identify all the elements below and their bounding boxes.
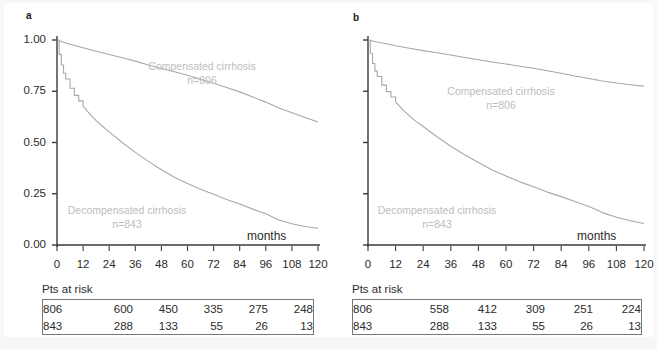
panel-b-x-tick-84: 84 (555, 259, 568, 271)
panel-b-x-axis-title: months (577, 230, 616, 242)
panel-a-x-tick-60: 60 (181, 259, 194, 271)
risk-cell: 55 (497, 317, 545, 334)
panel-b-x-tick-72: 72 (527, 259, 540, 271)
risk-cell: 13 (593, 317, 641, 334)
panel-a-risk-caption: Pts at risk (42, 284, 92, 296)
risk-cell: 806 (353, 300, 401, 317)
risk-cell: 248 (268, 300, 313, 317)
panel-b-x-tick-24: 24 (417, 259, 430, 271)
panel-a-y-tick-0.75: 0.75 (12, 85, 46, 97)
risk-cell: 450 (133, 300, 178, 317)
panel-a-x-tick-36: 36 (129, 259, 142, 271)
panel-a-risk-table: 806600450335275248843288133552613 (42, 299, 314, 335)
risk-cell: 275 (223, 300, 268, 317)
panel-a-x-tick-72: 72 (207, 259, 220, 271)
panel-a-y-tick-0.00: 0.00 (12, 239, 46, 251)
risk-cell: 843 (353, 317, 401, 334)
panel-a-x-tick-84: 84 (233, 259, 246, 271)
panel-b-x-tick-48: 48 (472, 259, 485, 271)
panel-b-x-tick-120: 120 (634, 259, 653, 271)
risk-cell: 224 (593, 300, 641, 317)
panel-a-x-tick-0: 0 (54, 259, 60, 271)
panel-b-x-tick-60: 60 (500, 259, 513, 271)
panel-a-annotation-decompensated: Decompensated cirrhosis n=843 (52, 204, 202, 232)
panel-b-risk-table: 806558412309251224843288133552613 (352, 299, 642, 335)
risk-cell: 133 (133, 317, 178, 334)
risk-cell: 26 (223, 317, 268, 334)
panel-a-annotation-compensated-line2: n=806 (132, 74, 272, 88)
panel-b-x-tick-96: 96 (582, 259, 595, 271)
panel-b-annotation-decompensated-line1: Decompensated cirrhosis (362, 204, 512, 218)
panel-a-annotation-decompensated-line1: Decompensated cirrhosis (52, 204, 202, 218)
panel-b-annotation-decompensated: Decompensated cirrhosis n=843 (362, 204, 512, 232)
risk-cell: 26 (545, 317, 593, 334)
table-row: 806558412309251224 (353, 300, 641, 317)
panel-a-x-axis-title: months (247, 230, 286, 242)
panel-a-annotation-compensated: Compensated cirrhosis n=806 (132, 60, 272, 88)
table-row: 806600450335275248 (43, 300, 313, 317)
panel-b-annotation-compensated: Compensated cirrhosis n=806 (431, 85, 571, 113)
table-row: 843288133552613 (353, 317, 641, 334)
panel-b: b 01224364860728496108120 months Compens… (328, 0, 656, 349)
risk-cell: 288 (401, 317, 449, 334)
panel-b-x-tick-0: 0 (365, 259, 371, 271)
panel-b-x-tick-36: 36 (444, 259, 457, 271)
panel-a: a 1.000.750.500.250.00 01224364860728496… (0, 0, 328, 349)
panel-b-annotation-compensated-line1: Compensated cirrhosis (431, 85, 571, 99)
panel-a-y-tick-0.50: 0.50 (12, 137, 46, 149)
panel-a-x-tick-120: 120 (308, 259, 327, 271)
risk-cell: 133 (449, 317, 497, 334)
risk-cell: 251 (545, 300, 593, 317)
panel-b-annotation-compensated-line2: n=806 (431, 99, 571, 113)
panel-a-x-tick-24: 24 (103, 259, 116, 271)
risk-cell: 558 (401, 300, 449, 317)
panel-b-risk-caption: Pts at risk (352, 284, 402, 296)
panel-a-x-tick-108: 108 (282, 259, 301, 271)
risk-cell: 843 (43, 317, 88, 334)
panel-a-y-tick-1.00: 1.00 (12, 34, 46, 46)
risk-cell: 412 (449, 300, 497, 317)
panel-a-x-tick-96: 96 (259, 259, 272, 271)
risk-cell: 309 (497, 300, 545, 317)
risk-cell: 600 (88, 300, 133, 317)
risk-cell: 13 (268, 317, 313, 334)
figure-canvas: a 1.000.750.500.250.00 01224364860728496… (0, 0, 657, 349)
risk-cell: 55 (178, 317, 223, 334)
risk-cell: 335 (178, 300, 223, 317)
panel-b-x-tick-108: 108 (607, 259, 626, 271)
panel-a-x-tick-48: 48 (155, 259, 168, 271)
risk-cell: 806 (43, 300, 88, 317)
panel-a-annotation-compensated-line1: Compensated cirrhosis (132, 60, 272, 74)
panel-a-x-tick-12: 12 (77, 259, 90, 271)
table-row: 843288133552613 (43, 317, 313, 334)
risk-cell: 288 (88, 317, 133, 334)
panel-a-annotation-decompensated-line2: n=843 (52, 218, 202, 232)
panel-b-x-tick-12: 12 (389, 259, 402, 271)
panel-b-annotation-decompensated-line2: n=843 (362, 218, 512, 232)
panel-a-y-tick-0.25: 0.25 (12, 188, 46, 200)
